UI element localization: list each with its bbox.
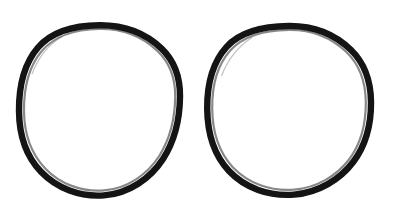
product-photo-canvas: Two black rubber O-ring seals shown side… xyxy=(0,0,397,216)
o-rings-illustration: Two black rubber O-ring seals shown side… xyxy=(0,0,397,216)
